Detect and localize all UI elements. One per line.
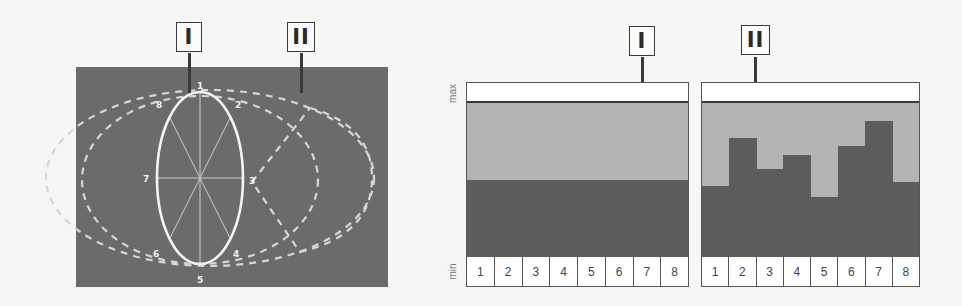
bar-3 — [522, 180, 550, 257]
chart-II-label-box: II — [741, 25, 770, 55]
category-cell: 2 — [495, 257, 523, 286]
chart-II-label-stem — [754, 57, 757, 83]
point-label-4: 4 — [233, 249, 239, 259]
point-label-1: 1 — [197, 81, 203, 91]
category-cell: 6 — [606, 257, 634, 286]
axis-min-label: min — [447, 263, 458, 279]
bar-2 — [729, 138, 757, 257]
category-cell: 7 — [634, 257, 662, 286]
bar-7 — [633, 180, 661, 257]
bar-1 — [467, 180, 495, 257]
bar-1 — [702, 186, 730, 257]
chart-II: 12345678 — [701, 82, 920, 287]
point-label-3: 3 — [249, 176, 255, 186]
chart-I-header-band — [467, 83, 688, 103]
label-box-I: I — [176, 22, 202, 52]
category-cell: 1 — [702, 257, 729, 286]
category-cell: 2 — [729, 257, 756, 286]
label-box-II: II — [287, 22, 315, 52]
bar-8 — [892, 182, 919, 257]
bar-4 — [550, 180, 578, 257]
chart-II-header-band — [702, 83, 919, 103]
bar-8 — [660, 180, 688, 257]
bar-5 — [578, 180, 606, 257]
category-cell: 4 — [784, 257, 811, 286]
dashed-lobe-right — [252, 108, 372, 252]
point-label-6: 6 — [153, 249, 159, 259]
bar-2 — [495, 180, 523, 257]
bar-6 — [605, 180, 633, 257]
bar-5 — [811, 197, 839, 257]
point-label-5: 5 — [197, 275, 203, 285]
bar-3 — [756, 169, 784, 257]
category-cell: 3 — [523, 257, 551, 286]
chart-I-label-stem — [641, 57, 644, 83]
bar-6 — [838, 146, 866, 257]
point-label-8: 8 — [156, 100, 162, 110]
category-cell: 5 — [811, 257, 838, 286]
chart-II-categories: 12345678 — [702, 257, 919, 286]
label-stem-II — [300, 53, 303, 93]
category-cell: 4 — [550, 257, 578, 286]
point-label-2: 2 — [235, 100, 241, 110]
axis-max-label: max — [447, 84, 458, 103]
point-label-7: 7 — [143, 174, 149, 184]
bar-7 — [865, 121, 893, 257]
chart-I-categories: 12345678 — [467, 257, 688, 286]
category-cell: 7 — [866, 257, 893, 286]
label-stem-I — [188, 53, 191, 93]
chart-I: 12345678 — [466, 82, 689, 287]
category-cell: 8 — [661, 257, 688, 286]
bar-4 — [783, 155, 811, 257]
chart-I-plot — [467, 103, 688, 259]
category-cell: 6 — [838, 257, 865, 286]
category-cell: 1 — [467, 257, 495, 286]
chart-II-plot — [702, 103, 919, 259]
category-cell: 8 — [893, 257, 919, 286]
category-cell: 3 — [757, 257, 784, 286]
category-cell: 5 — [578, 257, 606, 286]
chart-I-label-box: I — [629, 26, 655, 56]
